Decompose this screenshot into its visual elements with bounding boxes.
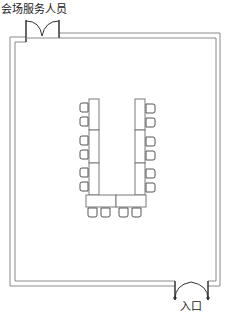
chair-right-6 — [146, 183, 155, 192]
chair-left-1 — [80, 103, 88, 112]
floor-plan — [0, 0, 227, 316]
table-left-3 — [89, 163, 99, 195]
chair-left-2 — [80, 117, 88, 126]
service-staff-label: 会场服务人员 — [1, 4, 67, 15]
u-shaped-table — [86, 99, 146, 207]
table-left-1 — [89, 99, 99, 130]
chair-bottom-3 — [119, 208, 128, 217]
table-right-2 — [135, 130, 145, 163]
table-left-2 — [89, 130, 99, 163]
chair-right-4 — [146, 151, 155, 160]
chair-left-3 — [80, 136, 88, 145]
chair-left-6 — [80, 182, 88, 191]
entrance-door[interactable] — [174, 281, 209, 300]
table-bottom-1 — [86, 195, 116, 207]
chair-bottom-4 — [132, 208, 141, 217]
table-bottom-2 — [116, 195, 146, 207]
entrance-label: 入口 — [180, 301, 202, 312]
chair-right-2 — [146, 118, 155, 127]
chair-bottom-1 — [88, 208, 97, 217]
chair-left-5 — [80, 168, 88, 177]
chair-right-1 — [146, 104, 155, 113]
chair-right-3 — [146, 137, 155, 146]
table-right-1 — [135, 99, 145, 130]
chair-bottom-2 — [101, 208, 110, 217]
table-right-3 — [135, 163, 145, 195]
service-door[interactable] — [26, 20, 59, 42]
room-walls — [10, 33, 220, 286]
chair-right-5 — [146, 169, 155, 178]
chair-left-4 — [80, 150, 88, 159]
